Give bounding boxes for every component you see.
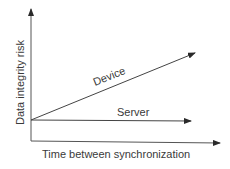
server-label: Server: [117, 106, 150, 118]
server-line: [31, 120, 191, 121]
device-line: [31, 53, 195, 120]
risk-diagram: Device Server Data integrity risk Time b…: [0, 0, 230, 169]
y-axis-label: Data integrity risk: [14, 40, 26, 125]
x-axis: [31, 141, 220, 143]
device-label: Device: [91, 64, 127, 88]
x-axis-label: Time between synchronization: [42, 148, 190, 160]
